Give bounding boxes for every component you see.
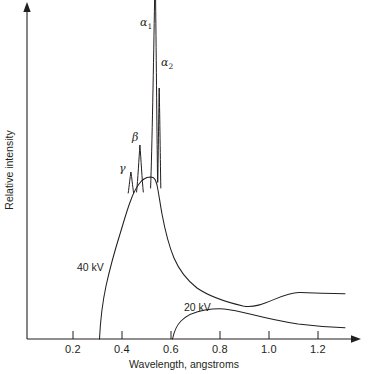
chart-canvas-lower <box>0 0 369 374</box>
curve-20kv <box>173 309 346 339</box>
xray-spectrum-figure: 0.2 0.4 0.6 0.8 1.0 1.2 Wavelength, angs… <box>0 0 369 374</box>
